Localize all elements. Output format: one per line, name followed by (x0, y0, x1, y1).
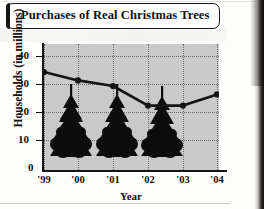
y-tick-mark-40 (36, 56, 42, 57)
y-tick-label-10: 10 (18, 134, 264, 145)
y-tick-label-40: 40 (18, 50, 264, 61)
x-tick-label-00: '00 (71, 174, 84, 185)
scan-artifact-band (0, 28, 226, 42)
data-point-marker (214, 91, 219, 97)
y-tick-mark-20 (36, 112, 42, 113)
scan-edge-artifact (254, 0, 264, 209)
x-tick-label-04: '04 (210, 174, 223, 185)
page-hairline-bottom (0, 203, 230, 204)
y-tick-label-30: 30 (18, 78, 264, 89)
y-tick-label-0: 0 (28, 162, 264, 173)
figure-title-frame: Purchases of Real Christmas Trees (6, 3, 220, 29)
x-tick-label-01: '01 (106, 174, 119, 185)
y-axis-title: Households (in millions) (12, 2, 24, 134)
y-tick-mark-30 (36, 84, 42, 85)
x-tick-label-99: '99 (37, 174, 50, 185)
x-tick-label-02: '02 (141, 174, 154, 185)
x-axis-title: Year (43, 190, 219, 202)
x-tick-label-03: '03 (176, 174, 189, 185)
page-hairline-top (0, 1, 264, 2)
y-tick-mark-10 (36, 140, 42, 141)
y-tick-label-20: 20 (18, 106, 264, 117)
figure-title: Purchases of Real Christmas Trees (21, 8, 209, 23)
scanned-page: Purchases of Real Christmas Trees (0, 0, 264, 209)
